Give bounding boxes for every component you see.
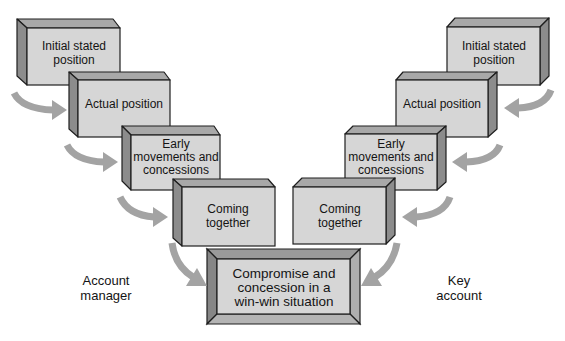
- box-side-face: [386, 178, 395, 244]
- party-label-line: Key: [448, 273, 471, 288]
- left-step-coming-together: Coming together: [173, 179, 275, 246]
- box-side-face: [437, 126, 446, 190]
- box-side-face: [488, 72, 497, 137]
- step-label-line: Initial stated: [42, 39, 106, 53]
- box-side-face: [540, 18, 549, 85]
- box-side-face: [173, 179, 182, 246]
- step-label-line: position: [53, 53, 94, 67]
- step-label-line: concessions: [143, 163, 209, 177]
- right-step-coming-together: Coming together: [293, 178, 395, 244]
- box-side-face: [17, 19, 27, 85]
- curved-arrow-icon: [14, 93, 67, 120]
- step-label-line: Early: [377, 137, 404, 151]
- right-party-label: Key account: [436, 273, 482, 303]
- step-label-line: Coming: [207, 202, 248, 216]
- step-label-line: together: [318, 216, 362, 230]
- curved-arrow-icon: [361, 243, 397, 286]
- step-label-line: Initial stated: [462, 39, 526, 53]
- step-label-line: movements and: [348, 150, 433, 164]
- left-party-label: Account manager: [80, 273, 132, 303]
- box-top-face: [447, 18, 549, 27]
- bevel-top: [207, 249, 360, 259]
- step-label-line: concessions: [358, 163, 424, 177]
- party-label-line: Account: [83, 273, 130, 288]
- outcome-label-line: Compromise and: [233, 266, 336, 281]
- party-label-line: manager: [80, 288, 132, 303]
- box-top-face: [345, 126, 446, 134]
- curved-arrow-icon: [120, 197, 168, 227]
- curved-arrow-icon: [67, 145, 118, 172]
- step-label-line: Actual position: [85, 97, 163, 111]
- outcome-label-line: win-win situation: [233, 294, 333, 309]
- bevel-left: [207, 249, 217, 324]
- box-top-face: [17, 19, 120, 28]
- bevel-bottom: [207, 314, 360, 324]
- box-top-face: [293, 178, 395, 187]
- step-label-line: Coming: [319, 202, 360, 216]
- curved-arrow-icon: [402, 197, 450, 227]
- curved-arrow-icon: [504, 90, 551, 118]
- box-top-face: [396, 72, 497, 80]
- bevel-right: [350, 249, 360, 324]
- negotiation-convergence-diagram: Initial stated position Actual position …: [0, 0, 565, 341]
- box-top-face: [173, 179, 275, 187]
- box-side-face: [69, 72, 78, 137]
- step-label-line: Early: [162, 137, 189, 151]
- outcome-compromise-box: Compromise and concession in a win-win s…: [207, 249, 360, 324]
- curved-arrow-icon: [452, 145, 500, 172]
- step-label-line: movements and: [133, 150, 218, 164]
- box-top-face: [69, 72, 170, 80]
- box-side-face: [122, 126, 131, 190]
- box-top-face: [122, 126, 220, 135]
- outcome-label-line: concession in a: [237, 280, 331, 295]
- party-label-line: account: [436, 288, 482, 303]
- step-label-line: Actual position: [403, 97, 481, 111]
- curved-arrow-icon: [172, 243, 207, 286]
- step-label-line: together: [206, 216, 250, 230]
- step-label-line: position: [473, 53, 514, 67]
